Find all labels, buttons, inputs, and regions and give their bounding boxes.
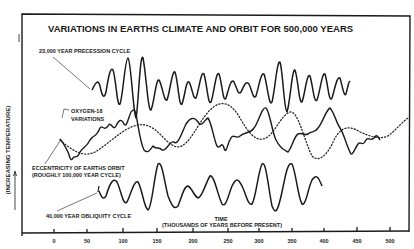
tick-label: 100 [118,238,127,244]
tick-label: 400 [319,238,328,244]
tick-label: 0 [52,238,55,244]
x-axis-sublabel: (THOUSANDS OF YEARS BEFORE PRESENT) [162,222,282,228]
eccentricity-curve [60,104,408,159]
obliquity-pointer [57,193,97,211]
y-axis-label: (INCREASING TEMPERATURE) [5,106,11,195]
tick-label: 50 [84,238,90,244]
x-tick-labels: 0 50 100 150 200 250 300 350 400 450 500 [52,238,394,244]
o18-pointer [62,109,69,118]
chart-title: VARIATIONS IN EARTHS CLIMATE AND ORBIT F… [48,23,353,34]
tick-label: 300 [254,238,263,244]
tick-label: 200 [188,238,197,244]
oxygen18-curve [60,108,380,160]
o18-label-2: VARIATIONS [71,116,104,122]
tick-label: 350 [287,238,296,244]
o18-label-1: OXYGEN-18 [71,108,102,114]
x-axis [22,231,409,233]
tick-label: 450 [352,238,361,244]
precession-curve [92,57,350,118]
obliquity-label: 40,000 YEAR OBLIQUITY CYCLE [46,213,131,219]
tick-label: 500 [385,238,394,244]
eccentricity-pointer [45,141,60,164]
tick-label: 250 [223,238,232,244]
eccentricity-label-1: ECCENTRICITY OF EARTHS ORBIT [32,165,125,171]
eccentricity-label-2: (ROUGHLY 100,000 YEAR CYCLE) [32,172,121,178]
climate-chart: VARIATIONS IN EARTHS CLIMATE AND ORBIT F… [0,0,414,249]
precession-label: 23,000 YEAR PRECESSION CYCLE [39,48,131,54]
precession-pointer [53,57,90,89]
obliquity-curve [99,163,322,210]
tick-label: 150 [152,238,161,244]
